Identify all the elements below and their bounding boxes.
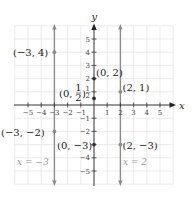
- tick-label: −1: [80, 115, 90, 123]
- tick-label: 5: [158, 109, 162, 117]
- equation-x-2: x = 2: [123, 157, 147, 167]
- tick-label: −5: [80, 168, 90, 176]
- label-point-0-2: (0, 2): [96, 67, 123, 78]
- x-axis: [14, 102, 176, 107]
- equation-x-minus-3: x = −3: [17, 157, 49, 167]
- tick-label: 4: [86, 49, 91, 57]
- tick-label: −5: [23, 109, 33, 117]
- tick-label: 3: [86, 62, 90, 70]
- tick-label: 4: [145, 109, 150, 117]
- tick-label: 1: [105, 109, 109, 117]
- point-m3-4: [53, 50, 57, 54]
- point-0-m3: [92, 143, 96, 147]
- tick-label: −4: [80, 154, 91, 162]
- coordinate-plane: −5 −4 −3 −2 −1 1 2 3 4 5 5 4 3 2 −1 −2 −…: [0, 0, 195, 198]
- label-point-2-m3: (2, −3): [123, 140, 158, 151]
- svg-text:2: 2: [75, 92, 81, 103]
- arrow-up-icon: [118, 24, 122, 30]
- x-axis-label: x: [179, 100, 185, 111]
- arrow-down-icon: [118, 181, 122, 187]
- arrow-up-icon: [52, 24, 56, 30]
- label-point-m3-4: (−3, 4): [13, 47, 48, 58]
- tick-label: 5: [86, 36, 90, 44]
- x-tick-labels: −5 −4 −3 −2 −1 1 2 3 4 5: [23, 109, 162, 117]
- tick-label: −2: [80, 128, 90, 136]
- point-m3-m2: [53, 130, 57, 134]
- tick-label: −4: [36, 109, 47, 117]
- point-0-half: [92, 97, 96, 101]
- label-point-m3-m2: (−3, −2): [1, 127, 45, 138]
- svg-text:(0,: (0,: [59, 88, 72, 99]
- arrow-down-icon: [52, 181, 56, 187]
- tick-label: −3: [49, 109, 59, 117]
- arrow-right-icon: [170, 102, 177, 107]
- label-point-0-half: (0, 1 2 ): [59, 82, 86, 103]
- tick-label: 3: [131, 109, 135, 117]
- tick-label-half-den: 2: [86, 92, 90, 100]
- tick-label: −2: [62, 109, 72, 117]
- label-point-2-1: (2, 1): [123, 82, 150, 93]
- arrow-up-icon: [91, 24, 96, 31]
- label-point-0-m3: (0, −3): [57, 140, 92, 151]
- y-axis-label: y: [91, 11, 98, 22]
- tick-label: 2: [86, 75, 90, 83]
- tick-label: 2: [118, 109, 122, 117]
- svg-text:): ): [82, 88, 86, 99]
